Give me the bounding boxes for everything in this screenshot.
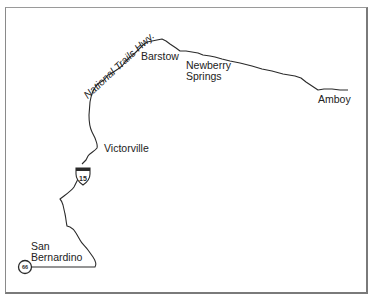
place-label-barstow: Barstow bbox=[141, 51, 179, 62]
route-66-shield-icon: 66 bbox=[19, 261, 32, 274]
svg-text:15: 15 bbox=[79, 175, 87, 182]
interstate-15-shield-icon: 15 bbox=[76, 168, 90, 185]
place-label-newberry-springs: Newberry Springs bbox=[186, 60, 231, 82]
place-label-victorville: Victorville bbox=[104, 143, 149, 154]
place-label-newberry-line2: Springs bbox=[186, 71, 231, 82]
place-label-san-bernardino: San Bernardino bbox=[31, 241, 82, 263]
svg-text:66: 66 bbox=[22, 264, 28, 270]
place-label-amboy: Amboy bbox=[318, 94, 351, 105]
place-label-san-bernardino-line2: Bernardino bbox=[31, 252, 82, 263]
